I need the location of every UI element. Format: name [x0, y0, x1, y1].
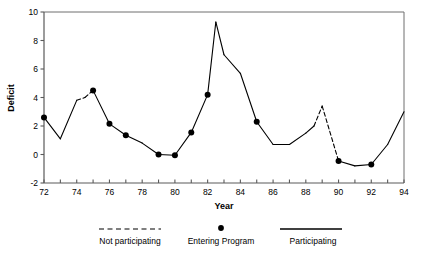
data-point-marker [188, 129, 194, 135]
x-tick-label: 84 [236, 187, 246, 197]
x-tick-label: 94 [399, 187, 409, 197]
data-point-marker [254, 119, 260, 125]
series-participating-solid [44, 22, 404, 166]
legend-label-participating: Participating [290, 236, 337, 246]
data-point-marker [205, 92, 211, 98]
line-segment-not-participating [77, 98, 85, 101]
chart-legend: Not participating Entering Program Parti… [99, 225, 342, 246]
chart-svg: -20246810 727476788082848688909294 Defic… [0, 0, 422, 255]
y-axis-title: Deficit [6, 84, 16, 112]
series-not-participating-dashed [77, 90, 339, 161]
y-tick-label: 6 [33, 64, 38, 74]
y-axis-tick-labels: -20246810 [29, 7, 39, 188]
x-tick-label: 80 [170, 187, 180, 197]
y-tick-label: 2 [33, 121, 38, 131]
legend-label-entering-program: Entering Program [188, 236, 255, 246]
data-point-marker [106, 121, 112, 127]
data-point-marker [336, 158, 342, 164]
line-segment-participating [371, 145, 387, 165]
line-segment-participating [388, 112, 404, 145]
line-segment-participating [224, 55, 240, 74]
legend-label-not-participating: Not participating [99, 236, 161, 246]
x-tick-label: 76 [105, 187, 115, 197]
data-point-marker [368, 161, 374, 167]
line-segment-participating [208, 22, 216, 95]
data-point-marker [156, 152, 162, 158]
data-point-marker [90, 87, 96, 93]
y-tick-label: 4 [33, 93, 38, 103]
line-segment-participating [175, 132, 191, 155]
line-segment-participating [44, 117, 60, 138]
x-tick-label: 86 [268, 187, 278, 197]
line-segment-participating [93, 90, 109, 123]
y-tick-label: 8 [33, 36, 38, 46]
x-tick-label: 88 [301, 187, 311, 197]
plot-frame [44, 12, 404, 183]
x-tick-label: 92 [367, 187, 377, 197]
line-segment-participating [306, 126, 314, 133]
line-segment-participating [257, 122, 273, 145]
deficit-year-line-chart: -20246810 727476788082848688909294 Defic… [0, 0, 422, 255]
series-entering-program-markers [41, 87, 374, 167]
line-segment-participating [191, 95, 207, 133]
x-tick-label: 78 [137, 187, 147, 197]
x-tick-label: 90 [334, 187, 344, 197]
legend-item-not-participating: Not participating [99, 229, 161, 246]
line-segment-participating [60, 100, 76, 138]
line-segment-not-participating [314, 106, 322, 126]
legend-item-participating: Participating [280, 229, 342, 246]
y-tick-label: 0 [33, 150, 38, 160]
x-tick-label: 72 [39, 187, 49, 197]
entering-program-marker-swatch [218, 225, 224, 231]
line-segment-participating [240, 73, 256, 121]
data-point-marker [172, 152, 178, 158]
legend-item-entering-program: Entering Program [188, 225, 255, 246]
y-tick-label: -2 [30, 178, 38, 188]
x-axis-title: Year [214, 201, 234, 211]
y-tick-label: 10 [29, 7, 39, 17]
line-segment-participating [289, 133, 305, 144]
data-point-marker [123, 132, 129, 138]
x-axis-tick-labels: 727476788082848688909294 [39, 187, 409, 197]
chart-figure: -20246810 727476788082848688909294 Defic… [0, 0, 422, 255]
line-segment-not-participating [322, 106, 338, 161]
x-tick-label: 74 [72, 187, 82, 197]
data-point-marker [41, 114, 47, 120]
line-segment-participating [216, 22, 224, 55]
x-tick-label: 82 [203, 187, 213, 197]
